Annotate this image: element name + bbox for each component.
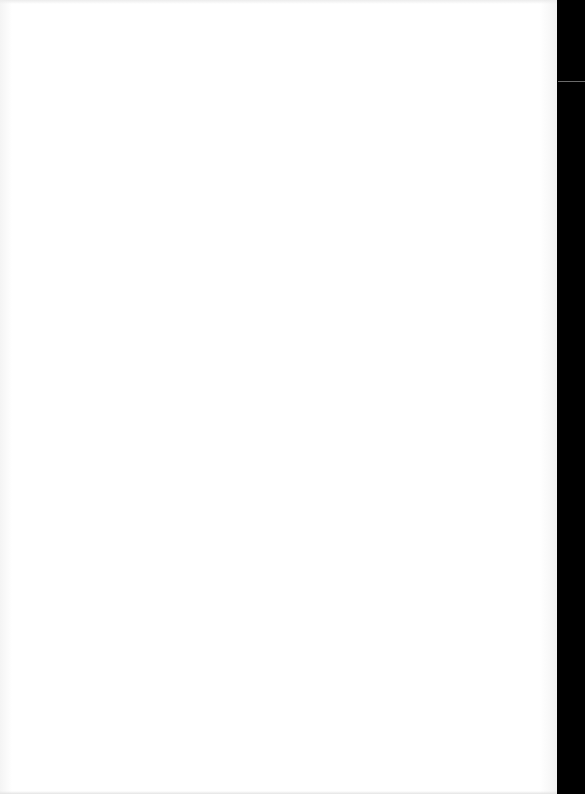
margin-divider-line [558,81,585,82]
right-black-margin [557,0,585,794]
page-content-area [40,40,517,754]
page-top-edge [0,0,557,4]
blank-document-page [0,0,557,794]
document-viewport [0,0,585,794]
